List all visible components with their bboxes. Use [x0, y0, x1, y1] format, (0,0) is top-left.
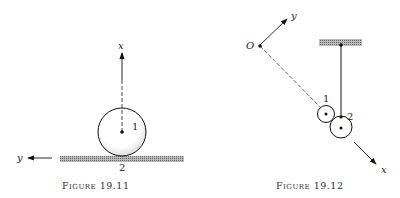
contact-label: 2	[119, 162, 125, 173]
x-axis-dashed	[260, 46, 325, 112]
small-disk-label: 1	[323, 93, 329, 104]
y-axis-label: y	[16, 152, 23, 163]
y-axis-arrow	[260, 19, 287, 45]
figure-19-12: O y x 1 2	[246, 10, 387, 175]
small-disk-center	[325, 113, 328, 116]
origin-label: O	[246, 40, 254, 51]
large-disk-center	[340, 127, 343, 130]
caption-figure-19-12: Figure 19.12	[276, 180, 343, 191]
rod-end	[339, 115, 342, 118]
pivot	[339, 43, 343, 47]
x-axis-arrow	[354, 142, 376, 164]
y-axis-label: y	[290, 10, 297, 21]
x-axis-label: x	[118, 40, 124, 51]
origin-point	[258, 44, 262, 48]
large-disk-label: 2	[347, 111, 353, 122]
body-label: 1	[132, 121, 138, 132]
caption-figure-19-11: Figure 19.11	[62, 180, 129, 191]
disk-center	[120, 130, 124, 134]
x-axis-label: x	[381, 164, 387, 175]
figure-19-11: x y 1 2	[16, 40, 184, 173]
